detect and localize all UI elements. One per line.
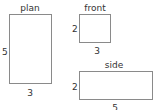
plan-title: plan xyxy=(20,3,39,13)
side-height-label: 2 xyxy=(72,82,78,92)
front-rectangle xyxy=(79,14,111,43)
front-title: front xyxy=(84,3,105,13)
front-height-label: 2 xyxy=(72,24,78,34)
side-title: side xyxy=(105,60,123,70)
front-width-label: 3 xyxy=(94,46,100,56)
plan-height-label: 5 xyxy=(2,47,8,57)
plan-rectangle xyxy=(9,14,52,84)
plan-width-label: 3 xyxy=(27,88,33,98)
side-width-label: 5 xyxy=(112,103,118,110)
side-rectangle xyxy=(79,71,153,100)
